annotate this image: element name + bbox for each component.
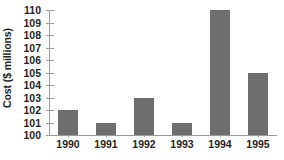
- y-axis-tick-label: 106: [23, 55, 41, 66]
- y-axis-tick: 106: [46, 60, 54, 61]
- x-axis-tick-label: 1992: [132, 139, 155, 150]
- plot-area: 110109108107106105104103102101100 199019…: [49, 10, 277, 136]
- y-axis-tick-label: 103: [23, 92, 41, 103]
- y-axis-tick: 105: [46, 73, 54, 74]
- y-axis-title: Cost ($ millions): [0, 0, 14, 136]
- bar: [96, 123, 116, 136]
- y-axis-tick: 109: [46, 23, 54, 24]
- bar: [248, 73, 268, 136]
- cropped-title-remnant: [0, 0, 284, 5]
- x-axis-tick-label: 1991: [94, 139, 117, 150]
- bar: [172, 123, 192, 136]
- y-axis-tick: 104: [46, 85, 54, 86]
- bar-chart-figure: Cost ($ millions) 1101091081071061051041…: [0, 0, 284, 160]
- y-axis-tick: 110: [46, 10, 54, 11]
- y-axis-tick-label: 105: [23, 67, 41, 78]
- y-axis-title-label: Cost ($ millions): [1, 28, 13, 108]
- y-axis-tick: 100: [46, 135, 54, 136]
- bar: [134, 98, 154, 136]
- y-axis-tick: 101: [46, 123, 54, 124]
- x-axis-line: [49, 135, 277, 136]
- y-axis-tick-label: 100: [23, 130, 41, 141]
- y-axis-tick-label: 102: [23, 105, 41, 116]
- y-axis-tick: 107: [46, 48, 54, 49]
- y-axis-tick: 108: [46, 35, 54, 36]
- x-axis-tick-label: 1994: [208, 139, 231, 150]
- x-axis-tick-label: 1993: [170, 139, 193, 150]
- y-axis-tick-label: 104: [23, 80, 41, 91]
- x-axis-tick-label: 1995: [246, 139, 269, 150]
- y-axis-tick-label: 101: [23, 117, 41, 128]
- y-axis-tick-label: 107: [23, 42, 41, 53]
- bar: [58, 110, 78, 135]
- y-axis-tick-label: 110: [24, 5, 41, 16]
- y-axis-tick-label: 109: [23, 17, 41, 28]
- bar: [210, 10, 230, 135]
- y-axis-tick-label: 108: [23, 30, 41, 41]
- y-axis-tick: 102: [46, 110, 54, 111]
- y-axis-tick: 103: [46, 98, 54, 99]
- x-axis-tick-label: 1990: [56, 139, 79, 150]
